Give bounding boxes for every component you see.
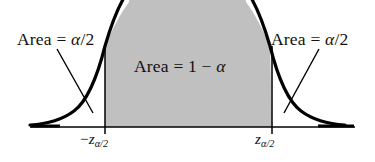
tick-right-subscript: α/2 bbox=[261, 138, 274, 149]
area-label-left-tail: Area = α/2 bbox=[17, 31, 94, 49]
normal-curve-svg bbox=[0, 0, 375, 162]
area-label-right-alpha: α bbox=[325, 29, 334, 49]
axis-tick-label-left: −zα/2 bbox=[80, 132, 108, 149]
area-label-center-alpha: α bbox=[216, 56, 225, 76]
normal-curve-figure: Area = α/2 Area = α/2 Area = 1 − α −zα/2… bbox=[0, 0, 375, 162]
tick-left-minus: − bbox=[80, 131, 89, 147]
leader-line-right bbox=[284, 49, 319, 113]
leader-line-left bbox=[57, 49, 93, 113]
area-label-right-tail: Area = α/2 bbox=[271, 31, 348, 49]
tick-left-subscript: α/2 bbox=[95, 138, 108, 149]
area-label-right-prefix: Area = bbox=[271, 29, 325, 49]
area-label-left-suffix: /2 bbox=[80, 29, 94, 49]
area-label-left-prefix: Area = bbox=[17, 29, 71, 49]
axis-tick-label-right: zα/2 bbox=[255, 132, 274, 149]
area-label-left-alpha: α bbox=[71, 29, 80, 49]
area-label-right-suffix: /2 bbox=[334, 29, 348, 49]
area-label-center-region: Area = 1 − α bbox=[134, 58, 226, 76]
area-label-center-prefix: Area = 1 − bbox=[134, 56, 216, 76]
